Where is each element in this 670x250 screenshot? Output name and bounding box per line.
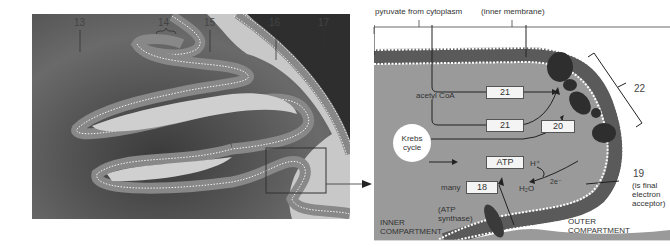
protein-complex-1: [547, 52, 573, 82]
box-20: 20: [541, 120, 575, 133]
final-acceptor-line-2: electron: [632, 190, 665, 199]
krebs-cycle-label: Krebs cycle: [398, 134, 426, 152]
two-e-label: 2e⁻: [550, 177, 562, 186]
krebs-line-2: cycle: [398, 143, 426, 152]
box-21-top: 21: [486, 86, 524, 99]
h-plus-label: H⁺: [530, 159, 540, 168]
outer-compartment-label: OUTER COMPARTMENT: [568, 217, 630, 235]
label-19: 19: [633, 168, 644, 179]
membrane-illustration: [374, 25, 670, 240]
box-atp: ATP: [486, 156, 524, 169]
atp-synthase-line-2: synthase): [438, 214, 473, 223]
atp-synthase-label: (ATP synthase): [438, 205, 473, 223]
acetyl-coa-label: acetyl CoA: [416, 91, 455, 100]
final-acceptor-line-3: acceptor): [632, 199, 665, 208]
membrane-detail-panel: 21 21 ATP 20 18 acetyl CoA Krebs cycle m…: [374, 25, 670, 240]
outer-compartment-line-2: COMPARTMENT: [568, 226, 630, 235]
box-21-bottom: 21: [486, 119, 524, 132]
protein-complex-3: [592, 123, 616, 143]
final-acceptor-line-1: (is final: [632, 181, 665, 190]
krebs-line-1: Krebs: [398, 134, 426, 143]
box-18: 18: [466, 181, 498, 194]
many-label: many: [441, 183, 461, 192]
h2o-label: H₂O: [519, 184, 534, 193]
pyruvate-label: pyruvate from cytoplasm: [375, 7, 462, 16]
outer-compartment-line-1: OUTER: [568, 217, 630, 226]
inner-compartment-line-2: COMPARTMENT: [380, 227, 442, 236]
inner-compartment-label: INNER COMPARTMENT: [380, 218, 442, 236]
atp-synthase-line-1: (ATP: [438, 205, 473, 214]
final-acceptor-label: (is final electron acceptor): [632, 181, 665, 208]
label-22: 22: [634, 83, 645, 94]
inner-compartment-line-1: INNER: [380, 218, 442, 227]
inner-membrane-label: (inner membrane): [481, 7, 545, 16]
